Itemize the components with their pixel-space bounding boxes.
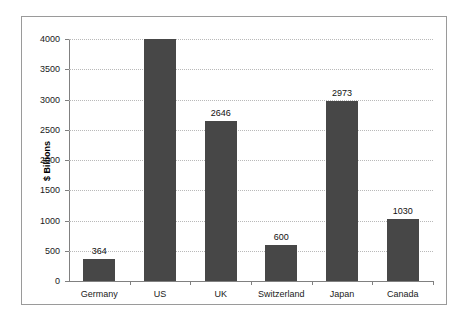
category-tick-mark bbox=[312, 281, 313, 285]
y-tick-label: 3000 bbox=[22, 95, 60, 105]
bar-slot: 2646 bbox=[190, 39, 251, 281]
category-tick-mark bbox=[190, 281, 191, 285]
category-axis: GermanyUSUKSwitzerlandJapanCanada bbox=[69, 281, 433, 305]
y-tick-label: 2500 bbox=[22, 125, 60, 135]
y-tick-label: 2000 bbox=[22, 155, 60, 165]
category-tick-mark bbox=[130, 281, 131, 285]
category-label: Japan bbox=[330, 289, 355, 299]
bar-value-label: 2973 bbox=[332, 88, 352, 98]
bar-value-label: 2646 bbox=[211, 108, 231, 118]
bar-slot: 600 bbox=[251, 39, 312, 281]
bar-value-label: 364 bbox=[92, 246, 107, 256]
category-label: US bbox=[154, 289, 167, 299]
bar[interactable] bbox=[205, 121, 237, 281]
y-tick-label: 1500 bbox=[22, 185, 60, 195]
bar[interactable] bbox=[265, 245, 297, 281]
bar[interactable] bbox=[387, 219, 419, 281]
chart-frame: $ Billions 05001000150020002500300035004… bbox=[21, 16, 447, 305]
y-tick-label: 500 bbox=[22, 246, 60, 256]
category-tick-mark bbox=[372, 281, 373, 285]
bar[interactable] bbox=[326, 101, 358, 281]
category-tick-mark bbox=[251, 281, 252, 285]
y-tick-label: 3500 bbox=[22, 64, 60, 74]
bar-slot: 2973 bbox=[312, 39, 373, 281]
y-tick-label: 4000 bbox=[22, 34, 60, 44]
plot-area: 364264660029731030 bbox=[69, 39, 433, 281]
bar[interactable] bbox=[83, 259, 115, 281]
bar-value-label: 1030 bbox=[393, 206, 413, 216]
y-tick-label: 1000 bbox=[22, 216, 60, 226]
y-tick-label: 0 bbox=[22, 276, 60, 286]
category-label: UK bbox=[214, 289, 227, 299]
category-label: Germany bbox=[81, 289, 118, 299]
category-tick-mark bbox=[433, 281, 434, 285]
bar[interactable] bbox=[144, 39, 176, 281]
bar-value-label: 600 bbox=[274, 232, 289, 242]
category-label: Switzerland bbox=[258, 289, 305, 299]
bar-slot: 1030 bbox=[372, 39, 433, 281]
bar-slot: 364 bbox=[69, 39, 130, 281]
category-label: Canada bbox=[387, 289, 419, 299]
bar-slot bbox=[130, 39, 191, 281]
